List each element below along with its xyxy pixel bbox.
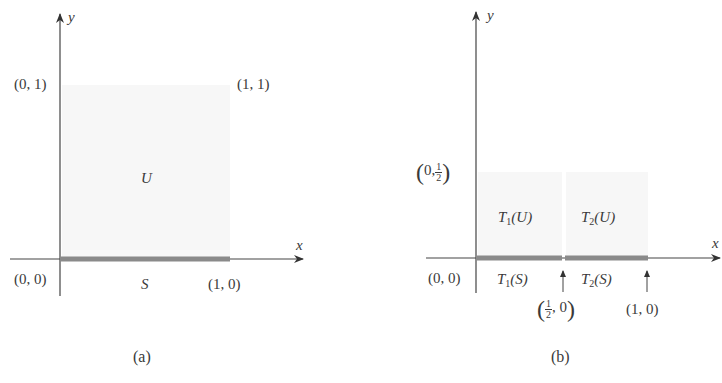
y-axis-label-a: y [68, 10, 75, 25]
figure-a [10, 14, 303, 296]
segment-t2-s-label: T2(S) [581, 272, 612, 289]
fraction-half-x: 12 [545, 299, 552, 320]
x-axis-label-b: x [712, 236, 719, 251]
segment-s-label: S [141, 277, 149, 292]
figure-b [426, 12, 720, 293]
caption-a: (a) [133, 349, 151, 365]
point-1-0-a: (1, 0) [208, 277, 241, 292]
point-0-0-a: (0, 0) [14, 272, 47, 287]
point-1-1: (1, 1) [237, 77, 270, 92]
point-1-0-b: (1, 0) [626, 302, 659, 317]
point-0-half: (0,12) [416, 160, 450, 184]
point-0-0-b: (0, 0) [428, 271, 461, 286]
region-u-label: U [141, 171, 152, 186]
point-half-0: (12, 0) [537, 297, 575, 321]
segment-t1-s-label: T1(S) [497, 272, 528, 289]
x-axis-label-a: x [296, 238, 303, 253]
point-0-1: (0, 1) [14, 77, 47, 92]
diagram-canvas [0, 0, 722, 383]
y-axis-label-b: y [487, 8, 494, 23]
region-t2-u-label: T2(U) [581, 210, 615, 227]
caption-b: (b) [551, 349, 570, 365]
region-t1-u-label: T1(U) [498, 210, 532, 227]
